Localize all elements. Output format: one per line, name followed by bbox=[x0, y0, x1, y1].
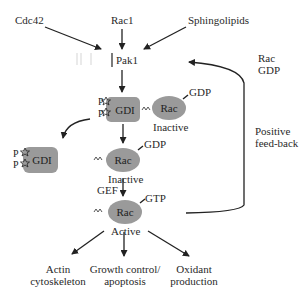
released-p-top: P bbox=[13, 149, 19, 159]
complex-p-top: P bbox=[98, 97, 104, 107]
cdc42-label: Cdc42 bbox=[15, 14, 44, 26]
gef-label: GEF bbox=[97, 184, 118, 196]
rac1-label: Rac1 bbox=[111, 14, 134, 26]
released-p-bottom: P bbox=[13, 160, 19, 170]
active-rac-squiggle bbox=[94, 209, 102, 212]
arrow-cdc42-to-pak1 bbox=[45, 27, 101, 49]
output-oxidant-line2: production bbox=[166, 275, 222, 287]
gdp-tick bbox=[183, 95, 188, 99]
free-gdp-label: GDP bbox=[144, 138, 166, 150]
complex-p-bottom: P bbox=[98, 109, 104, 119]
output-actin-line2: cytoskeleton bbox=[25, 275, 91, 287]
output-oxidant: Oxidant production bbox=[166, 263, 222, 287]
feedback-rac-label: Rac bbox=[258, 52, 275, 64]
output-growth: Growth control/ apoptosis bbox=[88, 263, 162, 287]
feedback-gdp-label: GDP bbox=[258, 64, 280, 76]
feedback-loop-arrow bbox=[186, 62, 244, 213]
arrow-to-oxidant bbox=[148, 231, 189, 256]
released-gdi-label: GDI bbox=[28, 154, 56, 166]
free-rac-squiggle bbox=[94, 157, 102, 160]
active-rac-label: Rac bbox=[111, 206, 139, 218]
arrow-sphingolipids-to-pak1 bbox=[144, 27, 186, 49]
free-rac-label: Rac bbox=[109, 154, 137, 166]
complex-gdi-label: GDI bbox=[112, 104, 138, 116]
faint-marks bbox=[77, 53, 91, 65]
output-growth-line2: apoptosis bbox=[88, 275, 162, 287]
feedback-positive-label: Positive bbox=[255, 125, 290, 137]
pak1-label: Pak1 bbox=[116, 54, 138, 66]
complex-rac-label: Rac bbox=[155, 102, 183, 114]
active-state-label: Active bbox=[111, 225, 140, 237]
output-actin-line1: Actin bbox=[25, 263, 91, 275]
output-growth-line1: Growth control/ bbox=[88, 263, 162, 275]
feedback-feedback-label: feed-back bbox=[255, 137, 298, 149]
gtp-label: GTP bbox=[145, 192, 166, 204]
arrow-to-actin bbox=[72, 231, 104, 254]
output-actin: Actin cytoskeleton bbox=[25, 263, 91, 287]
free-gdp-tick bbox=[138, 146, 143, 150]
complex-gdp-label: GDP bbox=[189, 86, 211, 98]
sphingolipids-label: Sphingolipids bbox=[188, 14, 249, 26]
output-oxidant-line1: Oxidant bbox=[166, 263, 222, 275]
complex-state-label: Inactive bbox=[153, 121, 188, 133]
arrow-release-gdi bbox=[63, 119, 90, 138]
linker-squiggle bbox=[142, 107, 150, 110]
